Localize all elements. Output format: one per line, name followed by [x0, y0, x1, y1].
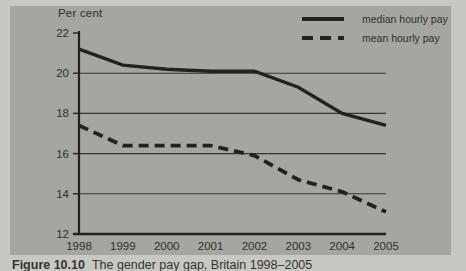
x-tick-label-2004: 2004 — [329, 240, 355, 252]
y-tick-label-16: 16 — [56, 148, 69, 160]
x-tick-label-2001: 2001 — [198, 240, 224, 252]
y-tick-label-12: 12 — [56, 228, 69, 240]
scanned-page: Per cent 1214161820221998199920002001200… — [0, 0, 466, 271]
mean-pay-line — [79, 125, 386, 211]
median-pay-line — [79, 49, 386, 125]
x-tick-label-1998: 1998 — [66, 240, 92, 252]
figure-caption-number: Figure 10.10 — [12, 258, 85, 271]
x-tick-label-2002: 2002 — [242, 240, 268, 252]
x-tick-label-2000: 2000 — [154, 240, 180, 252]
legend-label-mean: mean hourly pay — [362, 32, 440, 44]
y-tick-label-20: 20 — [56, 67, 69, 79]
figure-caption-text: The gender pay gap, Britain 1998–2005 — [92, 258, 312, 271]
y-tick-label-18: 18 — [56, 107, 69, 119]
y-tick-label-14: 14 — [56, 188, 69, 200]
x-tick-label-1999: 1999 — [110, 240, 136, 252]
chart-panel: Per cent 1214161820221998199920002001200… — [10, 6, 451, 255]
x-tick-label-2003: 2003 — [285, 240, 311, 252]
figure-caption: Figure 10.10The gender pay gap, Britain … — [12, 258, 312, 271]
legend-label-median: median hourly pay — [362, 13, 449, 25]
y-tick-label-22: 22 — [56, 27, 69, 39]
x-tick-label-2005: 2005 — [373, 240, 399, 252]
gender-pay-gap-line-chart: 1214161820221998199920002001200220032004… — [10, 6, 451, 255]
